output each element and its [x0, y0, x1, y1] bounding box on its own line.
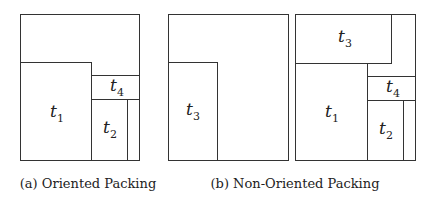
label-subscript: 2 — [110, 128, 117, 141]
label-text: t — [103, 117, 110, 137]
label-subscript: 1 — [332, 112, 339, 125]
label-subscript: 1 — [57, 112, 64, 125]
label-t3-b-right: t3 — [338, 26, 352, 49]
label-text: t — [386, 76, 393, 96]
caption-b: (b) Non-Oriented Packing — [211, 176, 380, 191]
label-subscript: 3 — [193, 110, 200, 123]
label-text: t — [186, 99, 193, 119]
label-text: t — [325, 101, 332, 121]
label-t4-a: t4 — [110, 75, 124, 98]
label-text: t — [379, 118, 386, 138]
label-subscript: 4 — [393, 87, 400, 100]
label-t3-b-left: t3 — [186, 99, 200, 122]
label-t2-a: t2 — [103, 117, 117, 140]
label-text: t — [50, 101, 57, 121]
label-text: t — [110, 75, 117, 95]
label-text: t — [338, 26, 345, 46]
label-subscript: 2 — [386, 129, 393, 142]
label-subscript: 3 — [345, 37, 352, 50]
label-t2-b-right: t2 — [379, 118, 393, 141]
label-t1-a: t1 — [50, 101, 64, 124]
label-t4-b-right: t4 — [386, 76, 400, 99]
label-t1-b-right: t1 — [325, 101, 339, 124]
label-subscript: 4 — [117, 86, 124, 99]
caption-a: (a) Oriented Packing — [20, 176, 156, 191]
